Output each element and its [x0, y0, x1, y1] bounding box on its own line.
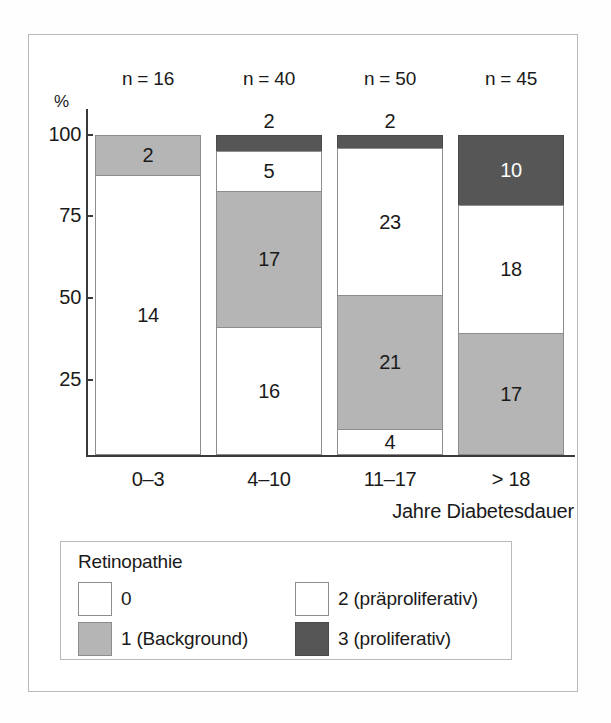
bar-2-segment-2-value: 5: [264, 160, 275, 183]
bar-3-segment-2-value: 23: [379, 211, 401, 234]
y-tick-mark-75: [86, 215, 93, 217]
stacked-bar-4[interactable]: 10 18 17: [458, 135, 564, 455]
bar-3-segment-retinopathy-3[interactable]: [337, 135, 443, 149]
legend-label-retinopathy-1: 1 (Background): [121, 628, 248, 650]
bar-4-segment-3-value: 10: [500, 159, 522, 182]
bar-2-segment-retinopathy-0[interactable]: 16: [216, 327, 322, 455]
y-tick-mark-25: [86, 379, 93, 381]
bar-2-segment-retinopathy-3[interactable]: [216, 135, 322, 152]
legend-swatch-white-icon: [78, 582, 112, 616]
x-tick-label-4: > 18: [458, 468, 564, 491]
group-total-label-3: n = 50: [337, 68, 443, 90]
bar-3-segment-retinopathy-0[interactable]: 4: [337, 429, 443, 455]
y-tick-label-25: 25: [33, 368, 81, 391]
stacked-bar-1[interactable]: 2 14: [95, 135, 201, 455]
y-tick-label-100: 100: [33, 123, 81, 146]
bar-3-segment-retinopathy-2[interactable]: 23: [337, 148, 443, 296]
group-total-label-4: n = 45: [458, 68, 564, 90]
bar-2-segment-retinopathy-2[interactable]: 5: [216, 151, 322, 192]
x-axis-line: [86, 455, 575, 457]
figure-root: % 100 75 50 25 n = 16 2 14 0–3 n = 40 2: [0, 0, 611, 723]
legend-title: Retinopathie: [78, 551, 182, 573]
legend-swatch-white-2-icon: [295, 582, 329, 616]
bar-3-segment-1-value: 21: [379, 351, 401, 374]
x-tick-label-3: 11–17: [337, 468, 443, 491]
legend-box: Retinopathie 0 2 (präproliferativ) 1 (Ba…: [60, 541, 512, 660]
y-axis-unit-label: %: [54, 92, 69, 112]
legend-swatch-dark-icon: [295, 622, 329, 656]
group-total-label-2: n = 40: [216, 68, 322, 90]
bar-1-segment-retinopathy-1[interactable]: 2: [95, 135, 201, 176]
stacked-bar-2[interactable]: 5 17 16: [216, 135, 322, 455]
y-axis-line: [86, 109, 88, 457]
legend-label-retinopathy-2: 2 (präproliferativ): [338, 588, 478, 610]
bar-2-segment-1-value: 17: [258, 248, 280, 271]
legend-item-retinopathy-2[interactable]: 2 (präproliferativ): [295, 582, 478, 616]
legend-label-retinopathy-3: 3 (proliferativ): [338, 628, 451, 650]
bar-2-segment-3-value-outside: 2: [216, 110, 322, 133]
bar-4-segment-1-value: 17: [500, 383, 522, 406]
bar-4-segment-retinopathy-2[interactable]: 18: [458, 205, 564, 334]
legend-item-retinopathy-0[interactable]: 0: [78, 582, 131, 616]
y-tick-mark-50: [86, 297, 93, 299]
y-tick-mark-100: [86, 134, 93, 136]
bar-2-segment-retinopathy-1[interactable]: 17: [216, 191, 322, 328]
x-tick-label-2: 4–10: [216, 468, 322, 491]
bar-4-segment-2-value: 18: [500, 258, 522, 281]
x-tick-label-1: 0–3: [95, 468, 201, 491]
bar-4-segment-retinopathy-3[interactable]: 10: [458, 135, 564, 206]
legend-item-retinopathy-3[interactable]: 3 (proliferativ): [295, 622, 451, 656]
y-tick-label-50: 50: [33, 286, 81, 309]
group-total-label-1: n = 16: [95, 68, 201, 90]
legend-item-retinopathy-1[interactable]: 1 (Background): [78, 622, 248, 656]
bar-3-segment-0-value: 4: [385, 431, 396, 454]
bar-4-segment-retinopathy-1[interactable]: 17: [458, 333, 564, 455]
stacked-bar-3[interactable]: 23 21 4: [337, 135, 443, 455]
bar-2-segment-0-value: 16: [258, 380, 280, 403]
bar-1-segment-retinopathy-0[interactable]: 14: [95, 175, 201, 455]
bar-1-segment-0-value: 14: [137, 304, 159, 327]
legend-swatch-gray-icon: [78, 622, 112, 656]
bar-3-segment-retinopathy-1[interactable]: 21: [337, 295, 443, 430]
legend-label-retinopathy-0: 0: [121, 588, 131, 610]
bar-3-segment-3-value-outside: 2: [337, 110, 443, 133]
plot-area: % 100 75 50 25 n = 16 2 14 0–3 n = 40 2: [0, 0, 611, 723]
x-axis-title: Jahre Diabetesdauer: [0, 500, 574, 523]
y-tick-label-75: 75: [33, 204, 81, 227]
bar-1-segment-1-value: 2: [143, 144, 154, 167]
